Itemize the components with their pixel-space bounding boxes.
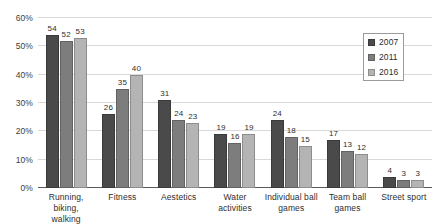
bar-value-label: 31 xyxy=(160,90,169,98)
bar[interactable] xyxy=(271,120,284,188)
bar[interactable] xyxy=(130,75,143,188)
legend-swatch-icon xyxy=(368,54,375,61)
bar-value-label: 3 xyxy=(416,170,421,178)
bar[interactable] xyxy=(74,38,87,188)
legend-item[interactable]: 2016 xyxy=(368,67,398,77)
bar-column: 24 xyxy=(172,18,185,188)
bar-group: 312423 xyxy=(151,18,207,188)
bar-column: 35 xyxy=(116,18,129,188)
bar[interactable] xyxy=(116,89,129,188)
bar[interactable] xyxy=(327,140,340,188)
bar-value-label: 3 xyxy=(402,170,407,178)
bar-chart: 0%10%20%30%40%50%60% 5452532635403124231… xyxy=(0,0,442,224)
y-axis-tick-label: 50% xyxy=(16,41,33,51)
legend-label: 2007 xyxy=(379,37,398,47)
x-axis-category-label: Wateractivities xyxy=(207,190,263,224)
bar-value-label: 54 xyxy=(48,25,57,33)
x-axis: Running,biking, walkingFitnessAesteticsW… xyxy=(38,190,432,224)
x-axis-category-label: Aestetics xyxy=(151,190,207,224)
bar-value-label: 53 xyxy=(76,28,85,36)
bar-column: 17 xyxy=(327,18,340,188)
bar[interactable] xyxy=(341,151,354,188)
bar-column: 31 xyxy=(158,18,171,188)
bar[interactable] xyxy=(60,41,73,188)
bar[interactable] xyxy=(102,114,115,188)
bar-value-label: 24 xyxy=(273,110,282,118)
x-axis-category-line: Individual ball xyxy=(263,192,319,203)
bar-group: 241815 xyxy=(263,18,319,188)
bar-value-label: 40 xyxy=(132,65,141,73)
bar-value-label: 4 xyxy=(388,167,393,175)
bar-value-label: 13 xyxy=(343,141,352,149)
bar-value-label: 16 xyxy=(230,133,239,141)
x-axis-category-label: Individual ballgames xyxy=(263,190,319,224)
bar-group: 545253 xyxy=(38,18,94,188)
x-axis-category-label: Fitness xyxy=(94,190,150,224)
bar-value-label: 15 xyxy=(301,136,310,144)
x-axis-category-label: Street sport xyxy=(376,190,432,224)
bar[interactable] xyxy=(228,143,241,188)
bar[interactable] xyxy=(355,154,368,188)
bar-column: 54 xyxy=(46,18,59,188)
x-axis-category-label: Running,biking, walking xyxy=(38,190,94,224)
bar-value-label: 19 xyxy=(244,124,253,132)
bar-column: 52 xyxy=(60,18,73,188)
bar-value-label: 24 xyxy=(174,110,183,118)
bar-column: 3 xyxy=(411,18,424,188)
bar[interactable] xyxy=(383,177,396,188)
bar[interactable] xyxy=(46,35,59,188)
x-axis-category-line: Running, xyxy=(38,192,94,203)
bar-column: 16 xyxy=(228,18,241,188)
x-axis-category-line: Team ball xyxy=(319,192,375,203)
x-axis-category-line: Street sport xyxy=(376,192,432,203)
bar-value-label: 35 xyxy=(118,79,127,87)
bar-value-label: 12 xyxy=(357,144,366,152)
x-axis-category-line: games xyxy=(263,203,319,214)
y-axis-tick-label: 60% xyxy=(16,13,33,23)
bar-column: 23 xyxy=(186,18,199,188)
bar-column: 18 xyxy=(285,18,298,188)
bar-column: 24 xyxy=(271,18,284,188)
y-axis: 0%10%20%30%40%50%60% xyxy=(0,0,38,206)
x-axis-category-line: Fitness xyxy=(94,192,150,203)
bar-column: 40 xyxy=(130,18,143,188)
bar[interactable] xyxy=(172,120,185,188)
y-axis-tick-label: 20% xyxy=(16,126,33,136)
bar[interactable] xyxy=(411,180,424,189)
bar-group: 263540 xyxy=(94,18,150,188)
bar-column: 19 xyxy=(242,18,255,188)
bar-value-label: 23 xyxy=(188,113,197,121)
y-axis-tick-label: 30% xyxy=(16,98,33,108)
x-axis-category-line: activities xyxy=(207,203,263,214)
legend-item[interactable]: 2011 xyxy=(368,52,398,62)
bar[interactable] xyxy=(158,100,171,188)
bar-column: 26 xyxy=(102,18,115,188)
y-axis-tick-label: 0% xyxy=(21,183,34,193)
bar[interactable] xyxy=(242,134,255,188)
bar-value-label: 17 xyxy=(329,130,338,138)
legend-swatch-icon xyxy=(368,39,375,46)
bar-column: 53 xyxy=(74,18,87,188)
legend-item[interactable]: 2007 xyxy=(368,37,398,47)
legend-label: 2011 xyxy=(379,52,398,62)
bar[interactable] xyxy=(285,137,298,188)
bar[interactable] xyxy=(299,146,312,189)
bar-column: 19 xyxy=(214,18,227,188)
x-axis-category-line: Aestetics xyxy=(151,192,207,203)
y-axis-tick-label: 40% xyxy=(16,70,33,80)
x-axis-category-line: Water xyxy=(207,192,263,203)
bar-value-label: 52 xyxy=(62,31,71,39)
bar-value-label: 19 xyxy=(216,124,225,132)
bar[interactable] xyxy=(186,123,199,188)
chart-legend: 200720112016 xyxy=(363,33,404,81)
y-axis-tick-label: 10% xyxy=(16,155,33,165)
bar[interactable] xyxy=(214,134,227,188)
bar[interactable] xyxy=(397,180,410,189)
bar-value-label: 26 xyxy=(104,104,113,112)
x-axis-category-label: Team ballgames xyxy=(319,190,375,224)
x-axis-category-line: biking, walking xyxy=(38,203,94,224)
bar-value-label: 18 xyxy=(287,127,296,135)
legend-label: 2016 xyxy=(379,67,398,77)
x-axis-category-line: games xyxy=(319,203,375,214)
bar-group: 191619 xyxy=(207,18,263,188)
